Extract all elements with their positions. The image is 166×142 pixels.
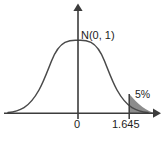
x-axis-tick-label-zero: 0 <box>74 119 80 130</box>
distribution-plot <box>0 0 166 142</box>
distribution-label: N(0, 1) <box>81 30 115 41</box>
tail-area-label: 5% <box>135 89 150 100</box>
x-axis-tick-label-critical-value: 1.645 <box>112 119 140 130</box>
x-axis-arrow-icon <box>153 109 161 118</box>
normal-distribution-figure: N(0, 1) 0 1.645 5% <box>0 0 166 142</box>
y-axis-arrow-icon <box>73 4 82 12</box>
